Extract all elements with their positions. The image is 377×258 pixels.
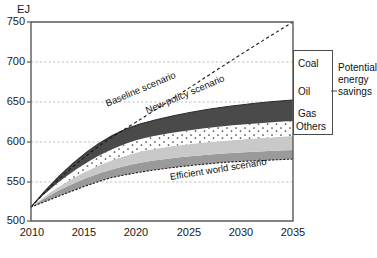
x-tick-2020: 2020	[122, 226, 150, 238]
legend-item-others: Others	[296, 122, 326, 132]
savings-line-3: savings	[338, 86, 377, 98]
y-axis-unit-label: EJ	[17, 3, 30, 15]
legend-item-coal: Coal	[298, 59, 319, 69]
potential-energy-savings-caption: Potential energy savings	[338, 62, 377, 98]
y-tick-650: 650	[0, 95, 25, 107]
x-tick-2035: 2035	[279, 226, 307, 238]
y-tick-700: 700	[0, 55, 25, 67]
y-tick-500: 500	[0, 214, 25, 226]
legend-item-gas: Gas	[298, 109, 316, 119]
x-tick-2030: 2030	[227, 226, 255, 238]
x-tick-2010: 2010	[18, 226, 46, 238]
x-tick-2025: 2025	[175, 226, 203, 238]
savings-line-1: Potential	[338, 62, 377, 74]
y-tick-750: 750	[0, 15, 25, 27]
x-tick-2015: 2015	[70, 226, 98, 238]
y-tick-600: 600	[0, 135, 25, 147]
y-tick-550: 550	[0, 175, 25, 187]
savings-line-2: energy	[338, 74, 377, 86]
stacked-bands	[31, 100, 293, 207]
legend-item-oil: Oil	[298, 87, 310, 97]
